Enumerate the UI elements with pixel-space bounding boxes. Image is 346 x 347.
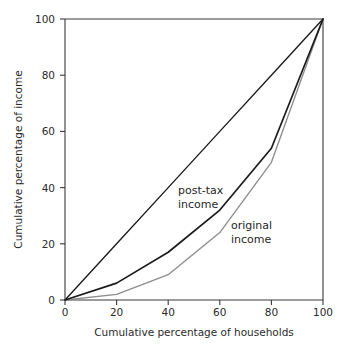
y-tick-label-100: 100	[35, 13, 55, 25]
post-tax-label-line1: post-tax	[178, 184, 224, 197]
x-tick-label-40: 40	[162, 306, 175, 318]
x-tick-label-60: 60	[213, 306, 226, 318]
y-axis-ticks	[60, 19, 65, 300]
y-tick-label-0: 0	[48, 294, 55, 306]
x-axis-tick-labels: 0 20 40 60 80 100	[62, 306, 333, 318]
annotation-post-tax-income: post-tax income	[178, 184, 224, 211]
chart-canvas: 0 20 40 60 80 100 0 20 40 60 80 100 Cumu…	[0, 0, 346, 347]
x-tick-label-80: 80	[265, 306, 278, 318]
post-tax-label-line2: income	[178, 198, 219, 211]
series-line-of-equality	[65, 19, 323, 300]
original-label-line1: original	[231, 219, 272, 232]
y-axis-title: Cumulative percentage of income	[12, 70, 24, 248]
y-tick-label-40: 40	[42, 182, 55, 194]
original-label-line2: income	[231, 233, 272, 246]
lorenz-curve-figure: 0 20 40 60 80 100 0 20 40 60 80 100 Cumu…	[0, 0, 346, 347]
x-tick-label-100: 100	[313, 306, 333, 318]
x-axis-title: Cumulative percentage of households	[94, 326, 294, 338]
x-tick-label-0: 0	[62, 306, 69, 318]
annotation-original-income: original income	[231, 219, 272, 246]
y-tick-label-20: 20	[42, 238, 55, 250]
y-axis-tick-labels: 0 20 40 60 80 100	[35, 13, 55, 306]
y-tick-label-60: 60	[42, 125, 55, 137]
y-tick-label-80: 80	[42, 69, 55, 81]
x-axis-ticks	[65, 300, 323, 305]
x-tick-label-20: 20	[110, 306, 123, 318]
